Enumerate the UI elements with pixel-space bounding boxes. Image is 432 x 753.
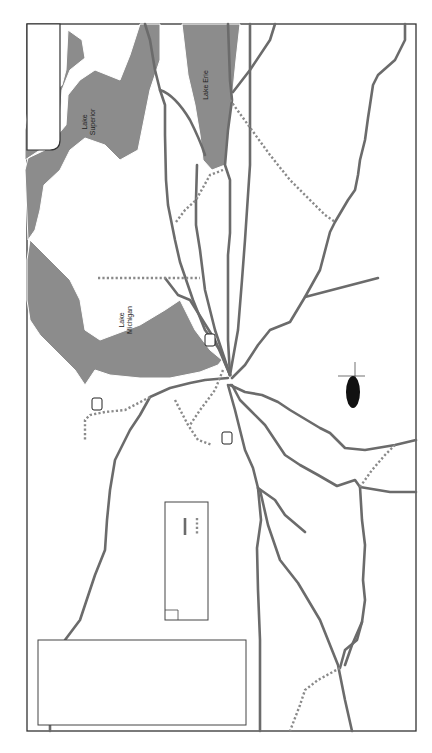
bradt-logo [346,376,360,408]
marker-1 [222,432,232,444]
compass [338,362,365,408]
inset-box [38,640,246,725]
midwest-rail-map: LakeSuperior LakeMichigan Lake Erie [0,0,432,753]
lake-erie-label: Lake Erie [202,70,209,100]
marker-3 [205,334,215,346]
lake-michigan-label: LakeMichigan [118,306,134,334]
title-box [27,24,60,150]
bus-lines [85,100,395,731]
marker-2 [92,398,102,410]
key-box [165,502,208,620]
